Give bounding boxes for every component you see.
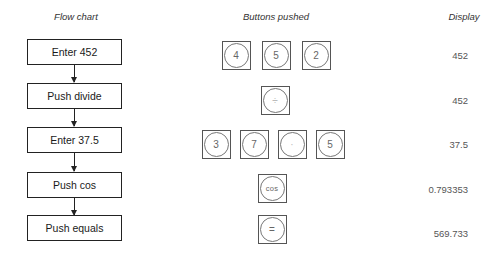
- flow-arrow: [74, 198, 75, 215]
- key-decimal-point: ·: [278, 130, 307, 159]
- display-value-5: 569.733: [434, 228, 468, 239]
- divide-icon: ÷: [263, 88, 288, 113]
- key-4-label: 4: [224, 43, 249, 68]
- flow-arrow: [74, 109, 75, 126]
- equals-icon: =: [260, 217, 285, 242]
- key-equals: =: [258, 215, 287, 244]
- flow-step-push-divide: Push divide: [27, 83, 122, 109]
- decimal-point-icon: ·: [280, 132, 305, 157]
- key-5b: 5: [316, 130, 345, 159]
- key-7: 7: [240, 130, 269, 159]
- flow-arrow: [74, 65, 75, 82]
- flow-step-enter-37-5: Enter 37.5: [27, 127, 122, 153]
- key-cos: cos: [258, 174, 287, 203]
- flow-step-push-equals: Push equals: [27, 215, 122, 241]
- key-5: 5: [262, 41, 291, 70]
- key-5-label: 5: [264, 43, 289, 68]
- key-4: 4: [222, 41, 251, 70]
- key-5b-label: 5: [318, 132, 343, 157]
- display-value-3: 37.5: [450, 139, 469, 150]
- key-2: 2: [302, 41, 331, 70]
- key-3: 3: [202, 130, 231, 159]
- flow-step-push-cos: Push cos: [27, 172, 122, 198]
- display-header: Display: [434, 11, 490, 22]
- key-3-label: 3: [204, 132, 229, 157]
- display-value-1: 452: [452, 50, 468, 61]
- buttons-pushed-header: Buttons pushed: [226, 11, 326, 22]
- key-7-label: 7: [242, 132, 267, 157]
- key-2-label: 2: [304, 43, 329, 68]
- display-value-2: 452: [452, 95, 468, 106]
- flow-step-enter-452: Enter 452: [27, 39, 122, 65]
- flow-chart-header: Flow chart: [36, 11, 116, 22]
- key-divide: ÷: [261, 86, 290, 115]
- flow-arrow: [74, 153, 75, 171]
- display-value-4: 0.793353: [428, 184, 468, 195]
- key-cos-label: cos: [260, 176, 285, 201]
